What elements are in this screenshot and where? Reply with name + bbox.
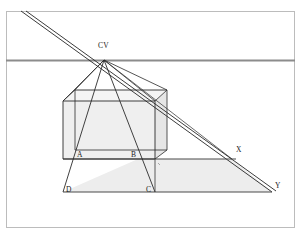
label-x: X: [236, 145, 242, 154]
perspective-figure: CV A B X Y D C: [0, 0, 302, 241]
label-c: C: [146, 185, 151, 194]
cube-top-face-fill: [63, 90, 167, 101]
label-cv: CV: [98, 41, 109, 50]
label-a: A: [77, 150, 83, 159]
ground-plane-fill: [63, 159, 272, 192]
label-y: Y: [275, 181, 281, 190]
figure-canvas: CV A B X Y D C: [0, 0, 302, 241]
label-d: D: [66, 185, 72, 194]
label-b: B: [131, 150, 136, 159]
cube-right-face-fill: [155, 90, 167, 159]
